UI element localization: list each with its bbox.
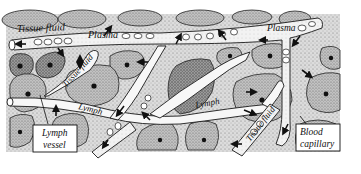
label-plasma-left: Plasma — [87, 29, 118, 40]
lymph-blood-diagram: Tissue fluid Plasma Plasma Tissue fluid … — [0, 0, 361, 174]
label-plasma-right: Plasma — [266, 23, 296, 33]
callout-lymph-vessel-line1: Lymph — [41, 128, 68, 138]
callout-blood-capillary-line2: capillary — [300, 139, 335, 149]
callout-blood-capillary-line1: Blood — [300, 127, 323, 137]
callout-lymph-vessel-line2: vessel — [43, 140, 66, 150]
label-tissue-fluid-top: Tissue fluid — [17, 21, 66, 34]
